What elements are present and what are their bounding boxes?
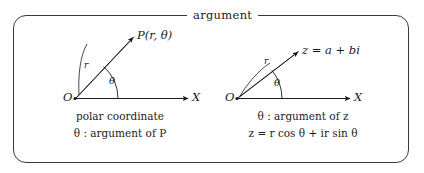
figure-frame — [13, 15, 409, 163]
argument-figure: argument O — [0, 0, 424, 173]
left-origin-label: O — [63, 92, 72, 104]
left-radius-label: r — [84, 61, 88, 70]
right-point-label: z = a + bi — [302, 45, 360, 57]
left-axis-label: X — [192, 92, 200, 104]
right-angle-label: θ — [274, 78, 280, 88]
left-angle-label: θ — [109, 76, 115, 86]
left-caption-line2: θ : argument of P — [40, 127, 200, 140]
right-caption-line2: z = r cos θ + ir sin θ — [212, 127, 394, 140]
right-axis-label: X — [354, 92, 362, 104]
right-caption-line1: θ : argument of z — [212, 110, 394, 123]
figure-title: argument — [187, 8, 258, 22]
left-caption-line1: polar coordinate — [40, 110, 200, 123]
right-radius-label: r — [264, 57, 268, 66]
right-origin-label: O — [225, 92, 234, 104]
left-point-label: P(r, θ) — [137, 30, 172, 42]
